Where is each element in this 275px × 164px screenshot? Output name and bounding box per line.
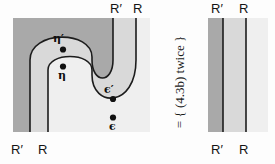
zigzag-diagram-svg <box>0 0 160 164</box>
right-bottom-label-R-prime: R′ <box>211 143 223 156</box>
node-epsilon-prime-dot <box>110 96 116 102</box>
figure-canvas: R′ R R′ R η′ η ϵ′ ϵ = { (4.3b) twice } R… <box>0 0 275 164</box>
region-light <box>246 18 268 132</box>
right-top-label-R-prime: R′ <box>211 2 223 15</box>
left-bottom-label-R-prime: R′ <box>11 143 23 156</box>
label-eta-prime: η′ <box>53 33 64 44</box>
equation-connector: = { (4.3b) twice } <box>158 0 202 164</box>
left-top-label-R-prime: R′ <box>110 2 122 15</box>
right-bottom-label-R: R <box>239 143 248 156</box>
region-dark <box>208 18 223 132</box>
right-diagram: R′ R R′ R <box>198 0 275 164</box>
label-eta: η <box>58 70 66 81</box>
node-eta-prime-dot <box>60 46 66 52</box>
label-epsilon-prime: ϵ′ <box>104 84 114 95</box>
equation-connector-text: = { (4.3b) twice } <box>172 36 188 128</box>
left-top-label-R: R <box>133 2 142 15</box>
right-top-label-R: R <box>239 2 248 15</box>
region-mid <box>223 18 246 132</box>
left-bottom-label-R: R <box>38 143 47 156</box>
left-diagram: R′ R R′ R η′ η ϵ′ ϵ <box>0 0 160 164</box>
label-epsilon: ϵ <box>109 121 116 132</box>
parallel-strands-svg <box>198 0 275 164</box>
